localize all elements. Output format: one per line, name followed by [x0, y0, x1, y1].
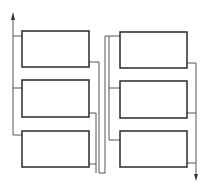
inlet-arrow-up-icon [11, 12, 15, 20]
box-right-3 [120, 131, 187, 167]
box-left-1 [22, 31, 89, 67]
right-header-line [187, 63, 196, 176]
box-left-2 [22, 80, 89, 117]
parallel-series-flow-diagram [0, 0, 207, 186]
box-right-2 [120, 81, 187, 118]
outlet-arrow-down-icon [194, 174, 198, 181]
left-1-to-right-1 [89, 36, 120, 173]
box-left-3 [22, 131, 89, 167]
box-right-1 [120, 32, 187, 68]
